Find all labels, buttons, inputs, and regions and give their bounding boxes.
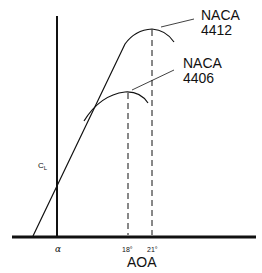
label-4406-line1: NACA <box>183 55 223 71</box>
label-4412-line2: 4412 <box>201 22 232 38</box>
leader-line-4406 <box>132 70 174 90</box>
tick-18: 18° <box>122 246 133 253</box>
label-4406-line2: 4406 <box>183 70 214 86</box>
lift-curve-diagram: NACA 4412 NACA 4406 CL α 18° 21° AOA <box>0 0 262 273</box>
y-axis-label: CL <box>38 161 48 171</box>
label-4412-line1: NACA <box>201 7 241 23</box>
x-axis-label: AOA <box>127 254 157 270</box>
origin-alpha-label: α <box>55 244 61 254</box>
leader-line-4412 <box>161 19 194 27</box>
tick-21: 21° <box>147 246 158 253</box>
curve-naca-4412 <box>33 29 174 236</box>
curve-naca-4406 <box>84 92 148 121</box>
